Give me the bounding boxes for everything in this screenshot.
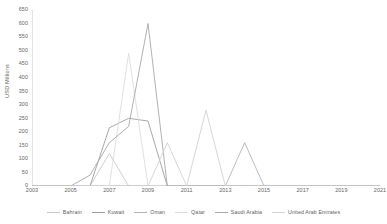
- plot-area: [32, 10, 380, 186]
- y-tick-label: 600: [19, 21, 28, 26]
- legend-label: United Arab Emirates: [288, 209, 340, 215]
- x-tick-label: 2007: [103, 188, 115, 193]
- legend-swatch-icon: [47, 212, 60, 213]
- legend-item-united-arab-emirates[interactable]: United Arab Emirates: [272, 209, 340, 215]
- y-tick-label: 300: [19, 102, 28, 107]
- x-tick-label: 2021: [374, 188, 386, 193]
- legend-label: Bahrain: [63, 209, 82, 215]
- x-tick-label: 2011: [181, 188, 193, 193]
- legend-label: Kuwait: [108, 209, 125, 215]
- series-line-saudi-arabia: [32, 24, 380, 186]
- legend-swatch-icon: [134, 212, 147, 213]
- x-tick-label: 2017: [296, 188, 308, 193]
- series-lines: [32, 10, 380, 186]
- series-line-oman: [32, 143, 380, 186]
- y-tick-label: 650: [19, 7, 28, 12]
- legend-label: Saudi Arabia: [231, 209, 262, 215]
- x-tick-label: 2003: [26, 188, 38, 193]
- series-line-kuwait: [32, 118, 380, 186]
- y-tick-label: 50: [22, 170, 28, 175]
- series-line-qatar: [32, 53, 380, 186]
- y-tick-label: 200: [19, 129, 28, 134]
- legend-swatch-icon: [175, 212, 188, 213]
- legend-swatch-icon: [92, 212, 105, 213]
- x-tick-label: 2013: [219, 188, 231, 193]
- line-chart: USD Millions 050100150200250300350400450…: [0, 0, 387, 224]
- legend-item-qatar[interactable]: Qatar: [175, 209, 205, 215]
- legend-label: Qatar: [191, 209, 205, 215]
- legend-swatch-icon: [215, 212, 228, 213]
- y-tick-label: 550: [19, 34, 28, 39]
- legend-item-kuwait[interactable]: Kuwait: [92, 209, 125, 215]
- y-tick-label: 500: [19, 48, 28, 53]
- y-axis-tick-labels: 050100150200250300350400450500550600650: [0, 10, 31, 186]
- y-tick-label: 250: [19, 116, 28, 121]
- legend-item-oman[interactable]: Oman: [134, 209, 165, 215]
- legend-swatch-icon: [272, 212, 285, 213]
- series-line-bahrain: [32, 154, 380, 186]
- y-tick-label: 400: [19, 75, 28, 80]
- series-line-united-arab-emirates: [32, 110, 380, 186]
- legend-label: Oman: [150, 209, 165, 215]
- legend-item-bahrain[interactable]: Bahrain: [47, 209, 82, 215]
- legend-item-saudi-arabia[interactable]: Saudi Arabia: [215, 209, 262, 215]
- y-tick-label: 350: [19, 89, 28, 94]
- x-tick-label: 2019: [335, 188, 347, 193]
- y-tick-label: 100: [19, 156, 28, 161]
- x-axis-tick-labels: 2003200520072009201120132015201720192021: [32, 188, 380, 198]
- x-tick-label: 2009: [142, 188, 154, 193]
- x-tick-label: 2015: [258, 188, 270, 193]
- y-tick-label: 150: [19, 143, 28, 148]
- y-tick-label: 450: [19, 61, 28, 66]
- chart-legend: BahrainKuwaitOmanQatarSaudi ArabiaUnited…: [0, 206, 387, 218]
- x-tick-label: 2005: [64, 188, 76, 193]
